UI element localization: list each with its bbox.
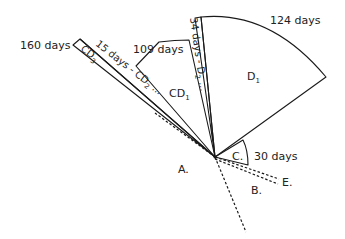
svg-text:CD1: CD1 [169, 87, 190, 102]
cd1-duration: 109 days [133, 43, 184, 56]
center-point [214, 156, 217, 159]
c-duration: 30 days [254, 150, 298, 163]
direction-b: B. [215, 157, 262, 232]
a-label: A. [178, 163, 189, 176]
cd3-duration: 160 days [20, 39, 71, 52]
d1-duration: 124 days [270, 14, 321, 27]
d1-label: D [247, 70, 255, 83]
sector-c: C. 30 days [215, 140, 298, 165]
svg-text:D1: D1 [247, 70, 260, 85]
sector-diagram: CD3 160 days 15 days - CD2 ... CD1 109 d… [0, 0, 345, 239]
d1-sub: 1 [255, 77, 259, 85]
e-label: E. [282, 176, 292, 189]
c-label: C. [232, 150, 243, 163]
svg-text:34 days - D2 ...: 34 days - D2 ... [185, 17, 209, 93]
sector-d1: D1 124 days [201, 14, 326, 157]
cd1-sub: 1 [185, 94, 189, 102]
cd1-label: CD [169, 87, 185, 100]
b-label: B. [251, 184, 262, 197]
